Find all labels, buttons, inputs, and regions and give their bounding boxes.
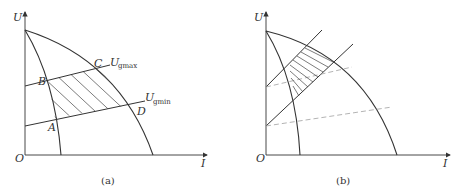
origin-label: O xyxy=(15,152,24,165)
panel-a: U O I B C A D U gmax U gmin (a) xyxy=(10,11,207,186)
point-c-label: C xyxy=(94,57,103,70)
hatched-region xyxy=(290,48,333,96)
point-a-label: A xyxy=(47,121,56,134)
ugmin-subscript: gmin xyxy=(153,98,171,106)
x-axis-label: I xyxy=(200,157,206,170)
line-ugmin xyxy=(25,101,145,126)
y-axis-label: U xyxy=(254,11,264,24)
dashed-line-lower xyxy=(266,107,392,126)
point-d-label: D xyxy=(136,105,146,118)
ugmax-subscript: gmax xyxy=(118,62,137,70)
panel-b: U O I (b) xyxy=(254,11,450,186)
caption-b: (b) xyxy=(336,175,350,186)
diagram-canvas: U O I B C A D U gmax U gmin (a) xyxy=(0,0,458,195)
origin-label: O xyxy=(256,152,265,165)
dashed-line-upper xyxy=(266,67,352,87)
outer-curve xyxy=(25,30,153,155)
x-axis-label: I xyxy=(442,157,448,170)
y-axis-label: U xyxy=(13,11,23,24)
caption-a: (a) xyxy=(101,175,115,186)
outer-curve xyxy=(266,31,397,155)
inner-curve xyxy=(266,31,300,155)
solid-line-upper xyxy=(266,30,322,87)
point-b-label: B xyxy=(37,75,46,88)
inner-curve xyxy=(25,30,61,155)
